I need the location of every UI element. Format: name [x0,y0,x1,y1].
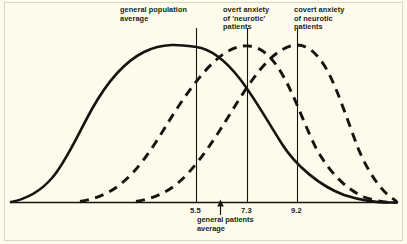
annotation-general-population-average: general population average [120,6,198,23]
tick-label-7-3: 7.3 [241,206,252,215]
curve-covert-anxiety [136,45,397,202]
tick-label-9-2: 9.2 [291,206,302,215]
tick-label-5-5: 5.5 [190,206,201,215]
figure-panel: general population average overt anxiety… [0,0,407,244]
annotation-overt-anxiety: overt anxiety of 'neurotic' patients [223,6,289,32]
distribution-plot [0,0,407,244]
annotation-general-patients-average: general patients average [197,216,287,233]
annotation-covert-anxiety: covert anxiety of neurotic patients [294,6,362,32]
